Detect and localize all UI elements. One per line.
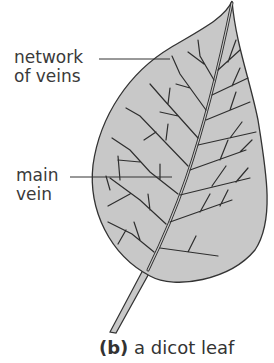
main-vein-label-line1: main: [16, 166, 58, 185]
main-vein-label-line2: vein: [16, 185, 58, 204]
main-vein-label: main vein: [16, 166, 58, 204]
leaf-blade: [92, 1, 267, 282]
figure-caption: (b) a dicot leaf: [99, 337, 234, 358]
caption-text: a dicot leaf: [134, 337, 234, 358]
network-of-veins-label-line2: of veins: [14, 67, 83, 86]
network-of-veins-label: network of veins: [14, 48, 83, 86]
leaf-stem: [110, 268, 152, 333]
caption-marker: (b): [99, 337, 128, 358]
network-of-veins-label-line1: network: [14, 48, 83, 67]
